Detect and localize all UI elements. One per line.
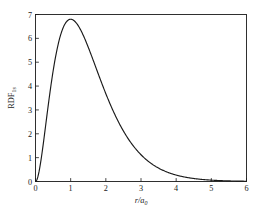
x-tick-label-4: 4 [174, 184, 178, 193]
x-tick-label-1: 1 [69, 184, 73, 193]
y-tick-label-2: 2 [28, 130, 32, 139]
y-tick-label-6: 6 [28, 34, 32, 43]
rdf-1s-line-chart: 0123456 01234567 r/a0 RDF1s [0, 0, 259, 213]
y-tick-label-0: 0 [28, 178, 32, 187]
y-tick-label-3: 3 [28, 106, 32, 115]
x-tick-label-5: 5 [209, 184, 213, 193]
x-tick-label-2: 2 [104, 184, 108, 193]
y-tick-label-4: 4 [28, 82, 32, 91]
y-tick-label-5: 5 [28, 58, 32, 67]
x-tick-label-0: 0 [33, 184, 37, 193]
x-tick-label-6: 6 [244, 184, 248, 193]
figure-container: 0123456 01234567 r/a0 RDF1s [0, 0, 259, 213]
y-tick-label-7: 7 [28, 11, 32, 20]
y-tick-label-1: 1 [28, 154, 32, 163]
x-tick-label-3: 3 [139, 184, 143, 193]
